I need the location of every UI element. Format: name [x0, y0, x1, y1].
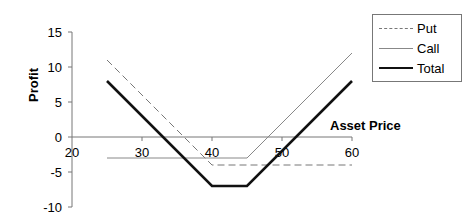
y-tick-minus5: -5	[50, 165, 62, 180]
thick-line-icon	[379, 67, 413, 69]
legend-item-total: Total	[379, 58, 444, 78]
series-total	[107, 81, 352, 186]
y-tick-10: 10	[48, 60, 62, 75]
y-tick-15: 15	[48, 25, 62, 40]
y-tick-0: 0	[55, 130, 62, 145]
legend-label-total: Total	[417, 61, 444, 76]
legend-label-call: Call	[417, 41, 439, 56]
y-tick-5: 5	[55, 95, 62, 110]
legend-label-put: Put	[417, 21, 437, 36]
dashed-line-icon	[379, 28, 413, 29]
y-axis-ticks	[68, 32, 72, 207]
x-axis-ticks	[142, 137, 352, 141]
x-tick-60: 60	[345, 145, 359, 160]
x-axis-label: Asset Price	[330, 118, 401, 133]
y-tick-minus10: -10	[43, 200, 62, 215]
legend-item-put: Put	[379, 18, 437, 38]
y-axis-label: Profit	[26, 67, 41, 102]
chart-legend: Put Call Total	[372, 14, 462, 82]
thin-line-icon	[379, 48, 413, 49]
x-tick-20: 20	[65, 145, 79, 160]
legend-item-call: Call	[379, 38, 439, 58]
series-call	[107, 53, 352, 158]
